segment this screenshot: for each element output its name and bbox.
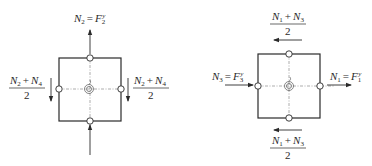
right-left-label: N3=F3y [211, 70, 244, 84]
right-bottom-node [286, 115, 292, 121]
svg-text:2: 2 [285, 25, 291, 37]
left-center-spiral-icon [85, 80, 94, 94]
right-right-node [317, 83, 323, 89]
right-top-fraction: N1+N3 2 [270, 10, 306, 37]
svg-text:N2+N4: N2+N4 [9, 74, 42, 88]
svg-text:2: 2 [148, 89, 154, 101]
right-right-label: N1=F1y [329, 70, 362, 84]
svg-text:N1+N3: N1+N3 [271, 10, 304, 24]
svg-text:N2+N4: N2+N4 [133, 74, 166, 88]
right-panel: N1+N3 2 N1+N3 2 N3=F3y N1=F1y [211, 10, 362, 161]
right-left-node [255, 83, 261, 89]
force-diagram: N2=F2y N2+N4 2 N2+N4 2 [0, 0, 372, 166]
right-bottom-fraction: N1+N3 2 [270, 134, 306, 161]
left-left-node [56, 86, 62, 92]
svg-text:N1+N3: N1+N3 [271, 134, 304, 148]
right-side-fraction: N2+N4 2 [133, 74, 169, 101]
svg-text:2: 2 [285, 149, 291, 161]
right-top-node [286, 51, 292, 57]
left-top-node [87, 55, 93, 61]
right-center-spiral-icon [285, 77, 294, 91]
left-top-label: N2=F2y [73, 12, 106, 26]
svg-text:2: 2 [24, 89, 30, 101]
left-side-fraction: N2+N4 2 [9, 74, 45, 101]
left-bottom-node [87, 118, 93, 124]
left-panel: N2=F2y N2+N4 2 N2+N4 2 [9, 12, 169, 155]
left-right-node [118, 86, 124, 92]
